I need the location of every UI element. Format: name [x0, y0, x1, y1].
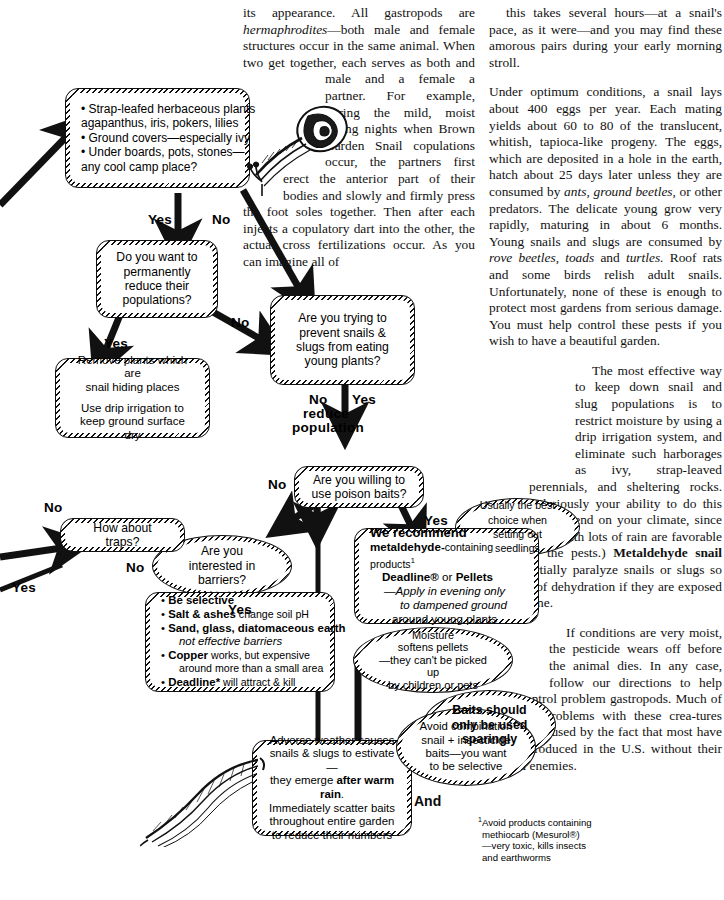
label-no-poison: No [268, 477, 287, 492]
moisture-softens-pellets-node[interactable]: Moisture softens pellets —they can't be … [353, 627, 513, 693]
prevent-eating-text: Are you trying to prevent snails & slugs… [280, 309, 405, 371]
weather-line2: snails & slugs to estivate— [268, 747, 396, 774]
label-yes-prevent: Yes [352, 392, 376, 407]
adverse-weather-action-node[interactable]: Adverse weather causes snails & slugs to… [252, 740, 412, 836]
remove-plants-action-node[interactable]: Remove plants which are snail hiding pla… [55, 358, 210, 438]
combination-line2: snail + insecticide [417, 734, 515, 747]
habitat-line-2: • Ground covers—especially ivy [81, 131, 246, 146]
weather-line3a: they emerge [270, 774, 336, 786]
moisture-line4: by children or pets [374, 679, 492, 692]
selective-item-0: • Be selective [161, 594, 331, 608]
footnote-line2: methiocarb (Mesurol®) [478, 829, 598, 841]
label-no-prevent-c: population [292, 420, 364, 435]
slug-illustration-bottom [140, 752, 265, 847]
selective-item-2: • Sand, glass, diatomaceous earth [161, 622, 331, 636]
label-yes-traps: Yes [12, 580, 36, 595]
permanently-reduce-text: Do you want to permanently reduce their … [106, 248, 208, 310]
poison-baits-question-node[interactable]: Are you willing to use poison baits? [294, 466, 424, 508]
sparingly-line1: Baits should [444, 703, 535, 718]
recommend-footnote-marker: 1 [411, 556, 415, 565]
moisture-line3: —they can't be picked up [374, 654, 492, 679]
barriers-text: Are you interested in barriers? [167, 542, 277, 589]
poison-baits-text: Are you willing to use poison baits? [304, 471, 414, 504]
weather-line1: Adverse weather causes [268, 734, 396, 748]
recommend-heading: We recommend [370, 526, 523, 540]
weather-line4: Immediately scatter baits [268, 802, 396, 816]
moisture-line1: Moisture [374, 629, 492, 642]
combination-line1: Avoid combination [417, 720, 515, 733]
recommend-apply: —Apply in evening only [370, 584, 523, 598]
selective-item-6: • Deadline* will attract & kill [161, 676, 331, 690]
footnote-line1: Avoid products containing [482, 817, 592, 828]
remove-line1: Remove plants which are [71, 354, 194, 381]
recommend-metaldehyde: metaldehyde- [370, 540, 445, 553]
moisture-line2: softens pellets [374, 641, 492, 654]
label-and: And [414, 793, 441, 809]
habitat-checklist-node[interactable]: • Strap-leafed herbaceous plants agapant… [65, 88, 250, 188]
footnote-line4: and earthworms [478, 852, 598, 864]
label-no-prevent-b: reduce [303, 406, 349, 421]
label-yes-permanent: Yes [104, 336, 128, 351]
footnote-methiocarb: 1Avoid products containing methiocarb (M… [478, 814, 598, 864]
habitat-line-4: any cool camp place? [81, 160, 246, 175]
recommend-dampened: to dampened ground [370, 598, 523, 612]
snail-illustration-top [246, 96, 361, 196]
label-no-prevent: No [309, 392, 328, 407]
remove-line2: snail hiding places [71, 381, 194, 395]
label-no-habitat: No [212, 212, 231, 227]
snail-control-decision-flowchart: • Strap-leafed herbaceous plants agapant… [0, 0, 724, 900]
be-selective-action-node[interactable]: • Be selective• Salt & ashes change soil… [145, 592, 335, 692]
label-no-traps: No [44, 500, 63, 515]
selective-item-1: • Salt & ashes change soil pH [161, 608, 331, 622]
remove-line3: Use drip irrigation to [71, 402, 194, 416]
weather-line6: to reduce their numbers [268, 829, 396, 843]
label-no-permanent: No [231, 315, 250, 330]
we-recommend-action-node[interactable]: We recommend metaldehyde-containing prod… [354, 528, 539, 624]
label-yes-habitat: Yes [148, 212, 172, 227]
weather-line3c: . [341, 788, 344, 800]
habitat-line-3: • Under boards, pots, stones— [81, 145, 246, 160]
prevent-eating-question-node[interactable]: Are you trying to prevent snails & slugs… [270, 295, 415, 385]
recommend-around: around young plants [370, 612, 523, 626]
remove-line4: keep ground surface dry [71, 415, 194, 442]
habitat-line-0: • Strap-leafed herbaceous plants [81, 102, 246, 117]
traps-question-node[interactable]: How about traps? [60, 518, 185, 552]
combination-line4: to be selective [417, 760, 515, 773]
permanently-reduce-question-node[interactable]: Do you want to permanently reduce their … [96, 240, 218, 318]
traps-text: How about traps? [70, 519, 175, 552]
label-no-barriers: No [126, 560, 145, 575]
recommend-or: or [439, 570, 456, 583]
selective-item-5: around more than a small area [161, 662, 331, 676]
selective-item-3: not effective barriers [161, 635, 331, 649]
recommend-deadline: Deadline® [382, 570, 439, 583]
avoid-combination-node[interactable]: Avoid combination snail + insecticide ba… [396, 708, 536, 786]
weather-line5: throughout entire garden [268, 815, 396, 829]
recommend-pellets: Pellets [456, 570, 493, 583]
combination-line3: baits—you want [417, 747, 515, 760]
footnote-line3: —very toxic, kills insects [478, 840, 598, 852]
selective-item-4: • Copper works, but expensive [161, 649, 331, 663]
habitat-line-1: agapanthus, iris, pokers, lilies [81, 116, 246, 131]
